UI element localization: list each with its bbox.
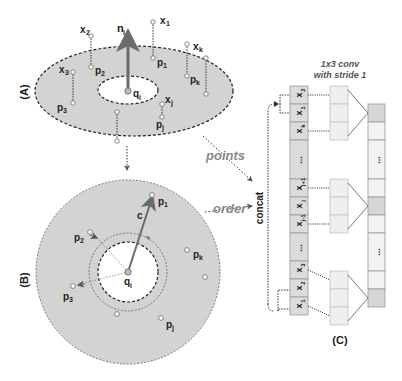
points-label: points (205, 148, 245, 163)
cell-xj: x (294, 203, 304, 208)
label-x2-sub: 2 (86, 29, 90, 36)
panel-c: 1x3 conv with stride 1 concat x x (254, 59, 385, 346)
qi-sub-b: i (130, 282, 132, 289)
conv-title: 1x3 conv (321, 59, 361, 69)
cell-xk: x (294, 128, 304, 133)
cell-xjm1-sub: j-1 (300, 214, 306, 223)
cell-x2-bottom: x (294, 285, 304, 290)
label-pj-sub: j (161, 124, 164, 132)
label-b-pj-sub: j (171, 324, 174, 332)
cell-x3: x (294, 267, 304, 272)
panel-b-label: (B) (18, 272, 30, 288)
panel-a: (A) n i q i x1 x2 (18, 15, 233, 143)
cell-x2-top: x (294, 92, 304, 97)
concat-label: concat (254, 191, 265, 224)
panel-c-label: (C) (332, 334, 348, 346)
cell-x1-bottom: x (294, 303, 304, 308)
cell-xj-sub: j (300, 200, 306, 203)
normal-sub: i (123, 29, 125, 36)
label-p1-sub: 1 (163, 62, 167, 69)
output-column (368, 104, 385, 307)
label-b-p1-sub: 1 (164, 201, 168, 208)
out-dots-1: ... (372, 156, 382, 164)
qi-sub: i (139, 94, 141, 101)
kernel-blocks (330, 86, 348, 325)
label-xk-sub: k (199, 46, 203, 53)
label-p3-sub: 3 (63, 107, 67, 114)
c-label: c (137, 210, 143, 221)
label-xj-sub: j (170, 99, 173, 107)
conv-subtitle: with stride 1 (314, 70, 367, 80)
panel-b: (B) c q i p1 p2 p3 pk pj (18, 180, 220, 364)
cell-xjp1-sub: j+1 (300, 177, 306, 187)
label-b-p3-sub: 3 (69, 296, 73, 303)
cell-x1-top: x (294, 110, 304, 115)
label-p2-sub: 2 (101, 70, 105, 77)
label-pk-sub: k (196, 79, 200, 86)
label-b-p2-sub: 2 (80, 237, 84, 244)
out-dots-2: ... (372, 248, 382, 256)
panel-a-label: (A) (18, 84, 30, 100)
label-x3-sub: 3 (65, 69, 69, 76)
diagram-canvas: (A) n i q i x1 x2 (0, 0, 402, 381)
cell-dots-2: ... (294, 244, 304, 252)
order-label: order (213, 201, 247, 216)
label-b-pk-sub: k (199, 254, 203, 261)
cell-dots-1: ... (294, 156, 304, 164)
label-x1-sub: 1 (166, 20, 170, 27)
